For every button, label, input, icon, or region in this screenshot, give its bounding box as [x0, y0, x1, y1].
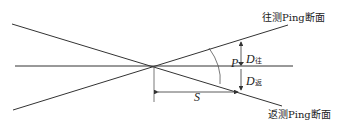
return-ping-label: 返测Ping断面 [268, 106, 331, 121]
d-return-letter: D [246, 74, 255, 88]
forward-ping-label: 往测Ping断面 [262, 9, 325, 24]
symbol-s: S [194, 90, 200, 105]
d-forward-subscript: 往 [255, 57, 262, 65]
symbol-d-return: D返 [246, 74, 262, 89]
symbol-d-forward: D往 [246, 52, 262, 67]
d-return-subscript: 返 [255, 79, 262, 87]
p-marker-arrow [238, 62, 244, 66]
forward-ping-line [13, 25, 288, 110]
d-forward-letter: D [246, 52, 255, 66]
symbol-p: P [231, 56, 238, 71]
